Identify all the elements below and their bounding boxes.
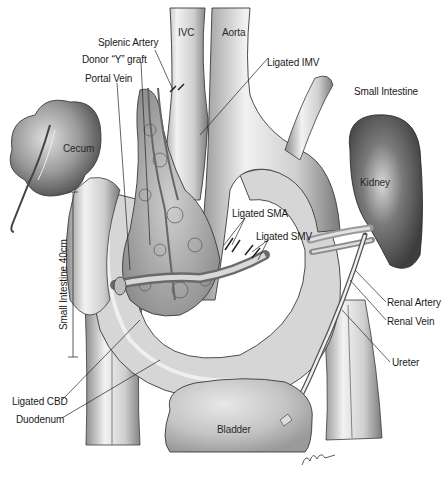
- label-splenic-artery: Splenic Artery: [98, 37, 158, 48]
- label-ligated-sma: Ligated SMA: [232, 208, 288, 219]
- label-cecum: Cecum: [63, 143, 94, 154]
- label-renal-vein: Renal Vein: [387, 316, 434, 327]
- label-ligated-cbd: Ligated CBD: [12, 396, 68, 407]
- bladder: [165, 379, 312, 452]
- label-aorta: Aorta: [222, 27, 245, 38]
- label-small-intestine: Small Intestine: [354, 86, 418, 97]
- label-portal-vein: Portal Vein: [85, 73, 132, 84]
- label-duodenum: Duodenum: [16, 414, 64, 425]
- label-kidney: Kidney: [360, 177, 390, 188]
- label-ivc: IVC: [178, 27, 194, 38]
- label-ligated-imv: Ligated IMV: [267, 57, 319, 68]
- label-bladder: Bladder: [217, 424, 251, 435]
- small-intestine-segment: [285, 76, 333, 160]
- signature-mark: [302, 455, 335, 465]
- label-donor-y-graft: Donor “Y” graft: [82, 54, 147, 65]
- label-small-intestine-40cm: Small Intestine 40cm: [58, 239, 69, 330]
- label-ligated-smv: Ligated SMV: [256, 231, 312, 242]
- label-renal-artery: Renal Artery: [387, 297, 441, 308]
- label-ureter: Ureter: [392, 357, 419, 368]
